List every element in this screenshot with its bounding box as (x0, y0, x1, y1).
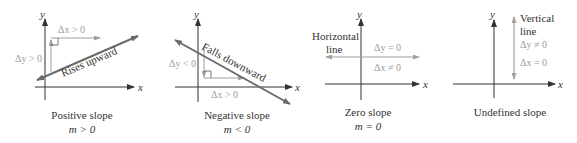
delta-y-label: Δy > 0 (15, 53, 42, 64)
panel-positive-slope: y x Δx > 0 Δy > 0 Rises upward Positive … (15, 8, 143, 135)
y-axis-label: y (489, 8, 495, 20)
line-label-vertical: Vertical (520, 12, 554, 24)
line-label-line: line (326, 43, 343, 55)
delta-x-label: Δx ≠ 0 (374, 62, 401, 73)
x-axis-label: x (137, 81, 143, 93)
delta-y-label: Δy ≠ 0 (520, 39, 547, 50)
slope-diagram: y x Δx > 0 Δy > 0 Rises upward Positive … (0, 0, 577, 143)
right-angle-marker (204, 71, 211, 78)
caption: Negative slope (204, 109, 270, 121)
caption: Undefined slope (474, 106, 547, 118)
panel-negative-slope: y x Δy < 0 Δx > 0 Falls downward Negativ… (169, 8, 300, 135)
delta-x-label: Δx > 0 (58, 24, 85, 35)
caption: Positive slope (51, 109, 113, 121)
delta-y-label: Δy < 0 (169, 58, 196, 69)
caption: Zero slope (345, 106, 392, 118)
line-label-line: line (520, 25, 537, 37)
panel-zero-slope: y x Horizontal line Δy = 0 Δx ≠ 0 Zero s… (312, 8, 428, 132)
panel-undefined-slope: y x Vertical line Δy ≠ 0 Δx = 0 Undefine… (453, 8, 563, 118)
slope-condition: m < 0 (224, 123, 251, 135)
y-axis-label: y (193, 8, 199, 20)
y-axis-label: y (356, 8, 362, 20)
right-angle-marker (51, 38, 58, 45)
delta-x-label: Δx = 0 (520, 57, 547, 68)
line-label: Rises upward (59, 44, 119, 79)
delta-y-label: Δy = 0 (374, 42, 401, 53)
x-axis-label: x (294, 81, 300, 93)
x-axis-label: x (422, 78, 428, 90)
x-axis-label: x (557, 78, 563, 90)
delta-x-label: Δx > 0 (211, 89, 238, 100)
slope-condition: m = 0 (355, 120, 382, 132)
slope-condition: m > 0 (69, 123, 96, 135)
y-axis-label: y (39, 8, 45, 20)
line-label-horizontal: Horizontal (312, 30, 359, 42)
